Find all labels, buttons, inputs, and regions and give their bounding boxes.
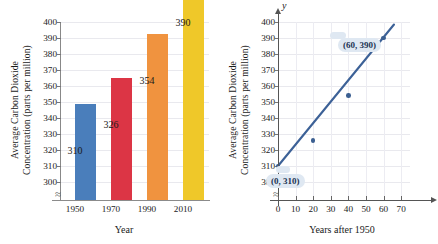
scatter-x-axis-arrow-icon [431, 197, 437, 203]
bar-1970[interactable] [111, 78, 132, 200]
scatter-ytick-340: 340 [249, 114, 275, 123]
scatter-x-axis-title: Years after 1950 [258, 224, 426, 235]
scatter-xtickmark-40 [348, 196, 349, 200]
scatter-chart-panel: Average Carbon Dioxide Concentration (pa… [218, 0, 438, 244]
bar-chart-y-axis-label-2: Concentration (parts per million) [21, 20, 32, 200]
bar-ytick-320: 320 [31, 146, 57, 155]
bar-ytick-350: 350 [31, 98, 57, 107]
scatter-ytick-370: 370 [249, 66, 275, 75]
scatter-xtickmark-60 [384, 196, 385, 200]
scatter-ytick-380: 380 [249, 50, 275, 59]
bar-ytick-400: 400 [31, 18, 57, 27]
bar-xtick-1950: 1950 [55, 205, 95, 214]
bar-tickmark-350 [57, 102, 61, 103]
bar-ytick-390: 390 [31, 34, 57, 43]
scatter-ytick-310: 310 [249, 162, 275, 171]
bar-ytick-360: 360 [31, 82, 57, 91]
bar-1990[interactable] [147, 34, 168, 200]
bar-value-1970: 326 [91, 120, 131, 130]
bar-value-2010: 390 [163, 18, 203, 28]
bar-tickmark-380 [57, 54, 61, 55]
bar-xtick-1970: 1970 [91, 205, 131, 214]
bar-ytick-330: 330 [31, 130, 57, 139]
scatter-y-label-line1: Average Carbon Dioxide [227, 61, 238, 159]
scatter-ytick-320: 320 [249, 146, 275, 155]
bar-y-label-line2: Concentration (parts per million) [21, 45, 32, 175]
bar-ytick-340: 340 [31, 114, 57, 123]
bar-2010[interactable] [183, 0, 204, 200]
bar-tickmark-300 [57, 182, 61, 183]
scatter-point-60-390[interactable] [381, 36, 386, 41]
scatter-xtickmark-0 [278, 196, 279, 200]
scatter-ytick-350: 350 [249, 98, 275, 107]
bar-ytick-370: 370 [31, 66, 57, 75]
scatter-xtickmark-10 [296, 196, 297, 200]
bar-tickmark-310 [57, 166, 61, 167]
bar-ytick-380: 380 [31, 50, 57, 59]
scatter-chart-y-axis-label-2: Concentration (parts per million) [239, 20, 250, 200]
scatter-xtickmark-30 [331, 196, 332, 200]
scatter-xtickmark-70 [401, 196, 402, 200]
scatter-ytick-400: 400 [249, 18, 275, 27]
bar-xtick-2010: 2010 [163, 205, 203, 214]
scatter-xtickmark-20 [313, 196, 314, 200]
bar-tickmark-330 [57, 134, 61, 135]
bar-tickmark-340 [57, 118, 61, 119]
scatter-ytick-330: 330 [249, 130, 275, 139]
bar-tickmark-390 [57, 38, 61, 39]
scatter-ytick-390: 390 [249, 34, 275, 43]
bar-chart-panel: Average Carbon Dioxide Concentration (pa… [0, 0, 218, 244]
scatter-point-40-354[interactable] [346, 93, 351, 98]
bar-x-axis-title: Year [40, 224, 208, 235]
bar-tickmark-370 [57, 70, 61, 71]
scatter-ytick-360: 360 [249, 82, 275, 91]
bar-ytick-310: 310 [31, 162, 57, 171]
bar-ytick-300: 300 [31, 178, 57, 187]
bar-value-1950: 310 [55, 146, 95, 156]
bar-axis-break-icon: ≈ [55, 188, 61, 200]
bar-y-label-line1: Average Carbon Dioxide [9, 61, 20, 159]
scatter-axis-letter-y: y [282, 0, 286, 11]
callout-point-0-310: (0, 310) [266, 174, 305, 188]
bar-value-1990: 354 [127, 76, 167, 86]
scatter-x-axis-line [270, 200, 432, 201]
scatter-y-axis-arrow-icon [275, 8, 281, 14]
scatter-xtickmark-50 [366, 196, 367, 200]
bar-tickmark-400 [57, 22, 61, 23]
scatter-chart-y-axis-label: Average Carbon Dioxide [227, 20, 238, 200]
bar-chart-y-axis-label: Average Carbon Dioxide [9, 20, 20, 200]
figure-pair: Average Carbon Dioxide Concentration (pa… [0, 0, 438, 244]
callout-tail-origin [276, 166, 290, 173]
bar-xtick-1990: 1990 [127, 205, 167, 214]
bar-tickmark-360 [57, 86, 61, 87]
scatter-y-label-line2: Concentration (parts per million) [239, 45, 250, 175]
callout-point-60-390: (60, 390) [338, 38, 381, 52]
bar-plot-area [60, 22, 209, 200]
bar-x-axis-line [52, 200, 210, 201]
scatter-xtick-70: 70 [391, 205, 411, 214]
